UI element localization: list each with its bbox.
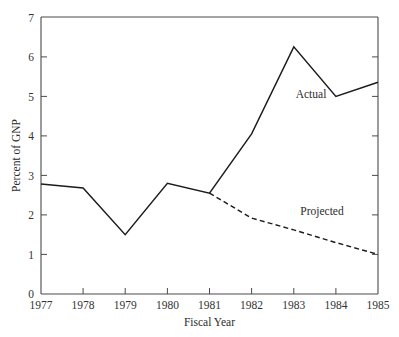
x-tick-label-1981: 1981: [198, 299, 221, 311]
y-tick-label-7: 7: [28, 12, 34, 24]
y-axis-title: Percent of GNP: [10, 119, 22, 192]
x-tick-label-1984: 1984: [324, 299, 347, 311]
chart-figure: 0 1 2 3 4 5 6 7 1977 1978 1979 1980 1981…: [0, 0, 399, 337]
x-tick-label-1977: 1977: [30, 299, 53, 311]
x-tick-label-1983: 1983: [282, 299, 305, 311]
chart-axes: [41, 17, 378, 294]
series-annotation-projected: Projected: [300, 205, 344, 218]
x-tick-label-1978: 1978: [72, 299, 95, 311]
x-axis-title: Fiscal Year: [184, 316, 235, 328]
y-tick-label-3: 3: [28, 170, 34, 182]
y-tick-label-4: 4: [28, 130, 34, 142]
y-axis-tick-labels: 0 1 2 3 4 5 6 7: [28, 12, 34, 301]
line-chart: 0 1 2 3 4 5 6 7 1977 1978 1979 1980 1981…: [0, 0, 399, 337]
x-tick-label-1985: 1985: [367, 299, 390, 311]
y-tick-label-1: 1: [28, 249, 34, 261]
series-annotation-actual: Actual: [296, 88, 327, 100]
x-axis-tick-labels: 1977 1978 1979 1980 1981 1982 1983 1984 …: [30, 299, 390, 311]
x-tick-label-1980: 1980: [156, 299, 179, 311]
y-tick-label-2: 2: [28, 209, 34, 221]
x-tick-label-1982: 1982: [240, 299, 263, 311]
y-tick-label-5: 5: [28, 91, 34, 103]
series-line-projected: [210, 193, 379, 254]
y-tick-label-6: 6: [28, 51, 34, 63]
x-tick-label-1979: 1979: [114, 299, 137, 311]
x-axis-ticks: [83, 288, 336, 294]
